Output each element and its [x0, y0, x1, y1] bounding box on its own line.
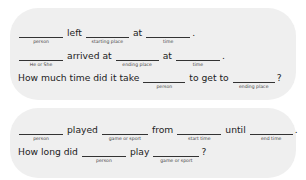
question-how-much-time: How much time did it take person to get … [18, 71, 282, 83]
word-until: until [222, 124, 248, 135]
sentence-played: person played game or sport from start t… [18, 123, 298, 135]
blank-label: game or sport [102, 136, 148, 141]
word-played: played [64, 124, 101, 135]
question-how-long: How long did person play game or sport ? [18, 145, 206, 157]
blank-label: game or sport [153, 158, 199, 163]
question-mark: ? [200, 146, 206, 157]
blank-label: start time [177, 136, 221, 141]
blank-label: time [146, 39, 190, 44]
question-mark: ? [276, 72, 282, 83]
blank-label: person [82, 158, 126, 163]
word-from: from [149, 124, 176, 135]
blank-start-time[interactable]: start time [177, 123, 221, 135]
blank-time[interactable]: time [176, 49, 220, 61]
travel-time-prompt-panel: person left starting place at time . He … [10, 8, 296, 100]
blank-label: end time [250, 136, 293, 141]
word-to-get-to: to get to [186, 72, 231, 83]
question-text: How long did [18, 146, 81, 157]
blank-end-time[interactable]: end time [250, 123, 293, 135]
blank-game-or-sport[interactable]: game or sport [102, 123, 148, 135]
word-at: at [130, 27, 145, 38]
sentence-left: person left starting place at time . [18, 26, 195, 38]
blank-time[interactable]: time [146, 26, 190, 38]
period: . [221, 50, 225, 61]
blank-ending-place[interactable]: ending place [233, 71, 275, 83]
word-play: play [127, 146, 152, 157]
period: . [191, 27, 195, 38]
blank-label: ending place [233, 84, 275, 89]
blank-label: He or She [19, 62, 63, 67]
word-at: at [160, 50, 175, 61]
blank-starting-place[interactable]: starting place [86, 26, 129, 38]
question-text: How much time did it take [18, 72, 142, 83]
blank-person[interactable]: person [19, 123, 63, 135]
blank-person[interactable]: person [143, 71, 185, 83]
word-arrived-at: arrived at [64, 50, 115, 61]
blank-label: person [19, 136, 63, 141]
blank-game-or-sport[interactable]: game or sport [153, 145, 199, 157]
blank-person[interactable]: person [82, 145, 126, 157]
blank-label: person [143, 84, 185, 89]
blank-label: person [19, 39, 63, 44]
blank-label: time [176, 62, 220, 67]
blank-person[interactable]: person [19, 26, 63, 38]
blank-label: starting place [86, 39, 129, 44]
blank-ending-place[interactable]: ending place [116, 49, 159, 61]
blank-he-or-she[interactable]: He or She [19, 49, 63, 61]
word-left: left [64, 27, 85, 38]
play-duration-prompt-panel: person played game or sport from start t… [10, 108, 296, 178]
sentence-arrived: He or She arrived at ending place at tim… [18, 49, 225, 61]
blank-label: ending place [116, 62, 159, 67]
period: . [294, 124, 298, 135]
